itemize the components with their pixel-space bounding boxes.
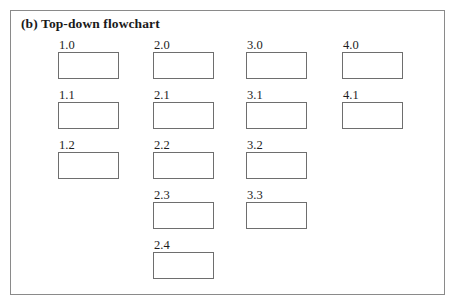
flow-node-3-2[interactable]: 3.2 bbox=[246, 139, 307, 179]
flow-node-4-0[interactable]: 4.0 bbox=[342, 39, 403, 79]
flow-node-box[interactable] bbox=[58, 52, 119, 79]
flow-node-label: 2.1 bbox=[154, 89, 170, 102]
flow-node-2-3[interactable]: 2.3 bbox=[153, 189, 214, 229]
flow-node-2-0[interactable]: 2.0 bbox=[153, 39, 214, 79]
flow-node-label: 2.0 bbox=[154, 39, 170, 52]
flow-node-label: 4.1 bbox=[343, 89, 359, 102]
flow-node-label: 2.3 bbox=[154, 189, 170, 202]
flow-node-label: 3.0 bbox=[247, 39, 263, 52]
flow-node-label: 2.2 bbox=[154, 139, 170, 152]
flow-node-box[interactable] bbox=[342, 52, 403, 79]
figure-panel: (b) Top-down flowchart 1.01.11.2 2.02.12… bbox=[10, 10, 445, 295]
flow-node-1-1[interactable]: 1.1 bbox=[58, 89, 119, 129]
figure-caption: (b) Top-down flowchart bbox=[21, 16, 160, 32]
flow-node-label: 1.0 bbox=[59, 39, 75, 52]
flow-node-label: 3.2 bbox=[247, 139, 263, 152]
flow-node-label: 1.2 bbox=[59, 139, 75, 152]
flow-node-1-0[interactable]: 1.0 bbox=[58, 39, 119, 79]
flow-node-box[interactable] bbox=[342, 102, 403, 129]
flow-node-box[interactable] bbox=[246, 152, 307, 179]
flow-node-box[interactable] bbox=[153, 52, 214, 79]
flow-node-box[interactable] bbox=[246, 202, 307, 229]
flow-node-2-2[interactable]: 2.2 bbox=[153, 139, 214, 179]
flow-node-box[interactable] bbox=[153, 152, 214, 179]
flow-node-label: 1.1 bbox=[59, 89, 75, 102]
flow-node-3-1[interactable]: 3.1 bbox=[246, 89, 307, 129]
flow-node-4-1[interactable]: 4.1 bbox=[342, 89, 403, 129]
flow-node-label: 4.0 bbox=[343, 39, 359, 52]
flow-node-box[interactable] bbox=[58, 102, 119, 129]
flow-node-box[interactable] bbox=[153, 102, 214, 129]
flow-node-2-1[interactable]: 2.1 bbox=[153, 89, 214, 129]
flow-node-box[interactable] bbox=[58, 152, 119, 179]
flow-node-box[interactable] bbox=[153, 202, 214, 229]
flow-node-3-3[interactable]: 3.3 bbox=[246, 189, 307, 229]
flow-node-box[interactable] bbox=[246, 52, 307, 79]
flow-node-2-4[interactable]: 2.4 bbox=[153, 239, 214, 279]
flow-node-3-0[interactable]: 3.0 bbox=[246, 39, 307, 79]
flow-node-1-2[interactable]: 1.2 bbox=[58, 139, 119, 179]
flow-node-label: 3.1 bbox=[247, 89, 263, 102]
flow-node-box[interactable] bbox=[246, 102, 307, 129]
flow-node-box[interactable] bbox=[153, 252, 214, 279]
flow-node-label: 2.4 bbox=[154, 239, 170, 252]
flow-node-label: 3.3 bbox=[247, 189, 263, 202]
